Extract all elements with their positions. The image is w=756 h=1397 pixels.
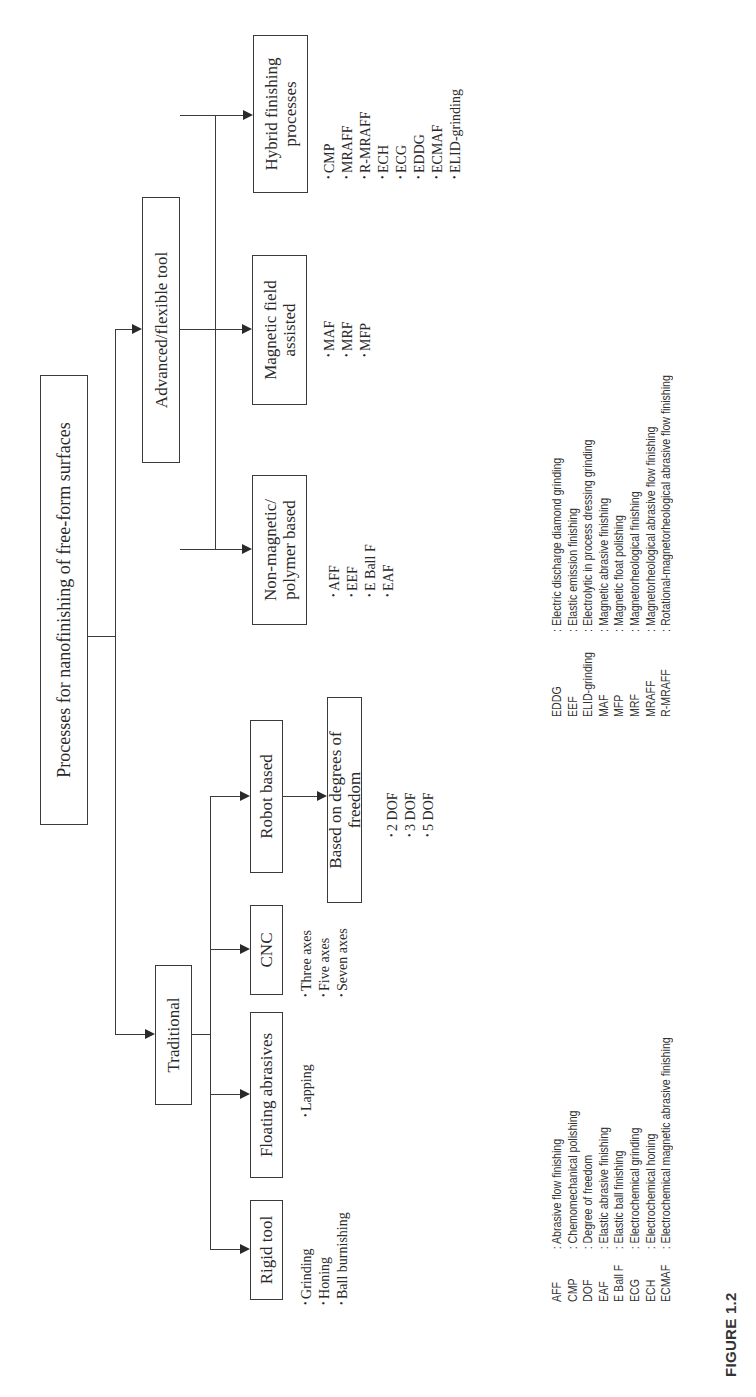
cnc-box: CNC xyxy=(250,905,283,995)
legend-def: : Magnetorheological finishing xyxy=(628,491,644,632)
legend-row: R-MRAFF: Rotational-magnetorheological a… xyxy=(659,375,675,717)
list-item: ELID-grinding xyxy=(446,89,464,179)
legend-def: : Magnetorheological abrasive flow finis… xyxy=(644,426,660,632)
legend-row: E Ball F: Elastic ball finishing xyxy=(612,1037,628,1302)
list-item: R-MRAFF xyxy=(356,89,374,179)
abbreviation-legend-right: EDDG: Electric discharge diamond grindin… xyxy=(550,375,675,717)
list-item: 5 DOF xyxy=(419,792,437,837)
legend-def: : Chemomechanical polishing xyxy=(566,1111,582,1250)
connector-line xyxy=(180,549,242,550)
floating-abrasives-label: Floating abrasives xyxy=(257,1033,276,1157)
root-label: Processes for nanofinishing of free-form… xyxy=(55,422,74,777)
legend-row: EEF: Elastic emission finishing xyxy=(566,375,582,717)
non-magnetic-label: Non-magnetic/ xyxy=(261,499,280,601)
arrow-icon xyxy=(240,944,250,954)
list-item: ECH xyxy=(374,89,392,179)
arrow-icon xyxy=(145,1029,155,1039)
root-box: Processes for nanofinishing of free-form… xyxy=(40,375,88,825)
legend-def: : Magnetic float polishing xyxy=(612,515,628,632)
legend-abbr: EEF xyxy=(566,632,582,717)
legend-row: EDDG: Electric discharge diamond grindin… xyxy=(550,375,566,717)
robot-based-box: Robot based xyxy=(250,720,283,873)
legend-row: DOF: Degree of freedom xyxy=(581,1037,597,1302)
legend-abbr: CMP xyxy=(566,1249,582,1302)
connector-line xyxy=(192,1034,210,1035)
non-magnetic-box: Non-magnetic/ polymer based xyxy=(252,475,307,625)
arrow-icon xyxy=(132,324,142,334)
legend-row: MFP: Magnetic float polishing xyxy=(612,375,628,717)
abbreviation-legend-left: AFF: Abrasive flow finishing CMP: Chemom… xyxy=(550,1037,675,1302)
list-item: Five axes xyxy=(315,928,333,997)
legend-def: : Elastic emission finishing xyxy=(566,508,582,632)
list-item: Grinding xyxy=(297,1212,315,1305)
legend-row: MRAFF: Magnetorheological abrasive flow … xyxy=(644,375,660,717)
legend-row: AFF: Abrasive flow finishing xyxy=(550,1037,566,1302)
connector-line xyxy=(215,329,242,330)
list-item: 3 DOF xyxy=(401,792,419,837)
traditional-label: Traditional xyxy=(164,998,183,1073)
legend-abbr: ELID-grinding xyxy=(581,632,597,717)
legend-def: : Rotational-magnetorheological abrasive… xyxy=(659,375,675,632)
legend-abbr: MFP xyxy=(612,632,628,717)
cnc-label: CNC xyxy=(257,933,276,968)
hybrid-finishing-label: Hybrid finishing xyxy=(262,58,281,171)
hybrid-finishing-list: CMP MRAFF R-MRAFF ECH ECG EDDG ECMAF ELI… xyxy=(320,89,464,179)
connector-line xyxy=(180,329,215,330)
arrow-icon xyxy=(240,1089,250,1099)
connector-line xyxy=(180,115,243,116)
magnetic-field-label: assisted xyxy=(280,304,299,357)
legend-row: MRF: Magnetorheological finishing xyxy=(628,375,644,717)
legend-abbr: MRAFF xyxy=(644,632,660,717)
hybrid-finishing-label: processes xyxy=(281,81,300,146)
legend-row: CMP: Chemomechanical polishing xyxy=(566,1037,582,1302)
list-item: MRAFF xyxy=(338,89,356,179)
list-item: MRF xyxy=(338,321,356,357)
rigid-tool-list: Grinding Honing Ball burnishing xyxy=(297,1212,351,1305)
robot-based-label: Robot based xyxy=(257,754,276,839)
list-item: Seven axes xyxy=(333,928,351,997)
connector-line xyxy=(115,1034,145,1035)
rigid-tool-box: Rigid tool xyxy=(250,1200,283,1300)
legend-abbr: MRF xyxy=(628,632,644,717)
non-magnetic-label: polymer based xyxy=(280,500,299,600)
list-item: Ball burnishing xyxy=(333,1212,351,1305)
legend-abbr: MAF xyxy=(597,632,613,717)
magnetic-field-box: Magnetic field assisted xyxy=(252,255,307,405)
advanced-tool-label: Advanced/flexible tool xyxy=(152,252,171,408)
legend-def: : Electrolytic in process dressing grind… xyxy=(581,439,597,632)
list-item: EEF xyxy=(343,544,361,597)
list-item: EAF xyxy=(379,544,397,597)
legend-abbr: E Ball F xyxy=(612,1249,628,1302)
legend-def: : Electrochemical magnetic abrasive fini… xyxy=(659,1037,675,1249)
arrow-icon xyxy=(240,1244,250,1254)
legend-def: : Elastic abrasive finishing xyxy=(597,1127,613,1249)
legend-row: ECMAF: Electrochemical magnetic abrasive… xyxy=(659,1037,675,1302)
degrees-of-freedom-label: Based on degrees of freedom xyxy=(326,702,364,898)
hybrid-finishing-box: Hybrid finishing processes xyxy=(253,35,308,193)
list-item: ECG xyxy=(392,89,410,179)
connector-line xyxy=(210,1249,240,1250)
list-item: CMP xyxy=(320,89,338,179)
list-item: ECMAF xyxy=(428,89,446,179)
diagram-canvas: Processes for nanofinishing of free-form… xyxy=(0,0,756,1397)
non-magnetic-list: AFF EEF E Ball F EAF xyxy=(325,544,397,597)
legend-row: ELID-grinding: Electrolytic in process d… xyxy=(581,375,597,717)
legend-def: : Degree of freedom xyxy=(581,1155,597,1249)
connector-line xyxy=(210,949,240,950)
connector-line xyxy=(115,329,132,330)
arrow-icon xyxy=(242,544,252,554)
dof-list: 2 DOF 3 DOF 5 DOF xyxy=(383,792,437,837)
connector-line xyxy=(210,796,240,797)
legend-abbr: EAF xyxy=(597,1249,613,1302)
legend-def: : Electrochemical honing xyxy=(644,1134,660,1250)
list-item: E Ball F xyxy=(361,544,379,597)
list-item: EDDG xyxy=(410,89,428,179)
connector-line xyxy=(88,636,115,637)
legend-abbr: AFF xyxy=(550,1249,566,1302)
legend-row: EAF: Elastic abrasive finishing xyxy=(597,1037,613,1302)
arrow-icon xyxy=(243,110,253,120)
legend-row: ECG: Electrochemical grinding xyxy=(628,1037,644,1302)
legend-abbr: EDDG xyxy=(550,632,566,717)
cnc-list: Three axes Five axes Seven axes xyxy=(297,928,351,997)
floating-abrasives-box: Floating abrasives xyxy=(250,1012,283,1178)
